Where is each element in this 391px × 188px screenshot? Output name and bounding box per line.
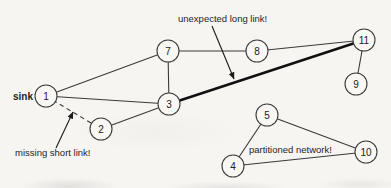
callout-layer bbox=[56, 26, 234, 148]
node-2-label: 2 bbox=[98, 124, 104, 135]
sink-label: sink bbox=[13, 91, 33, 102]
node-2: 2 bbox=[90, 118, 112, 140]
node-1-label: 1 bbox=[43, 91, 49, 102]
node-10: 10 bbox=[355, 141, 377, 163]
annotation-layer: sinkunexpected long link!missing short l… bbox=[13, 13, 332, 158]
node-8: 8 bbox=[246, 40, 268, 62]
network-topology-diagram: 123781195410 sinkunexpected long link!mi… bbox=[0, 0, 391, 188]
arrow-to-missing-short-link bbox=[56, 112, 73, 148]
node-7: 7 bbox=[157, 40, 179, 62]
partitioned-network-label: partitioned network! bbox=[249, 144, 332, 155]
node-3: 3 bbox=[158, 93, 180, 115]
node-10-label: 10 bbox=[360, 147, 372, 158]
node-3-label: 3 bbox=[166, 99, 172, 110]
unexpected-long-link-label: unexpected long link! bbox=[178, 13, 267, 24]
node-11: 11 bbox=[353, 29, 375, 51]
node-8-label: 8 bbox=[254, 46, 260, 57]
node-5: 5 bbox=[256, 104, 278, 126]
scanned-figure-page: 123781195410 sinkunexpected long link!mi… bbox=[0, 0, 391, 188]
node-4-label: 4 bbox=[230, 161, 236, 172]
node-5-label: 5 bbox=[264, 110, 270, 121]
arrow-to-unexpected-long-link bbox=[212, 26, 234, 79]
node-11-label: 11 bbox=[359, 35, 370, 46]
missing-short-link-label: missing short link! bbox=[15, 147, 91, 158]
edge-1-7 bbox=[46, 51, 168, 96]
edge-1-3 bbox=[46, 96, 169, 104]
node-4: 4 bbox=[222, 155, 244, 177]
node-7-label: 7 bbox=[165, 46, 171, 57]
node-1: 1 bbox=[35, 85, 57, 107]
node-9: 9 bbox=[345, 73, 367, 95]
node-9-label: 9 bbox=[353, 79, 359, 90]
